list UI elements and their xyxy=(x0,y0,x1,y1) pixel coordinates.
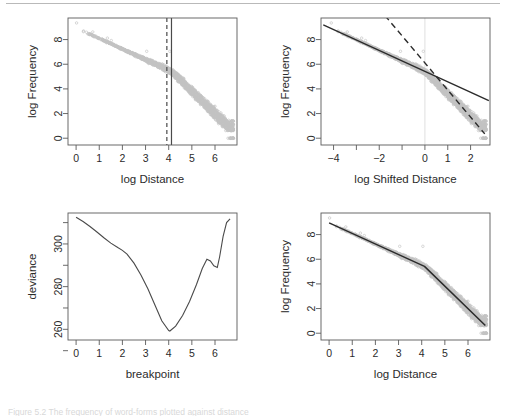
panel-bottom-right-x-tick-label: 6 xyxy=(465,347,471,359)
figure-caption-text: Figure 5.2 The frequency of word-forms p… xyxy=(0,408,506,416)
panel-top-right-y-tick-label: 6 xyxy=(305,61,317,67)
panel-bottom-left-y-axis: 260280300 xyxy=(52,223,68,351)
panel-bottom-left-y-tick-label: 280 xyxy=(52,278,64,296)
panel-bottom-left-x-tick-label: 5 xyxy=(189,347,195,359)
figure-caption-strip: Figure 5.2 The frequency of word-forms p… xyxy=(0,408,506,416)
panel-top-left-x-tick-label: 6 xyxy=(212,152,218,164)
panel-top-left-x-tick-label: 4 xyxy=(166,152,172,164)
panel-top-left-ylabel: log Frequency xyxy=(26,45,38,118)
panel-bottom-left: 0123456260280300breakpointdeviance xyxy=(26,213,237,380)
plot-grid: 012345602468log Distancelog Frequency−4−… xyxy=(0,0,506,404)
panel-bottom-left-x-tick-label: 3 xyxy=(143,347,149,359)
panel-top-left-y-axis: 02468 xyxy=(52,36,68,141)
panel-bottom-left-x-tick-label: 6 xyxy=(212,347,218,359)
panel-top-left-y-tick-label: 2 xyxy=(52,110,64,116)
panel-bottom-right-x-axis: 0123456 xyxy=(326,340,471,359)
panel-top-left-x-tick-label: 0 xyxy=(73,152,79,164)
top-horizontal-rule xyxy=(6,3,500,4)
panel-top-right-x-tick-label: 1 xyxy=(445,152,451,164)
panel-top-right-data-region xyxy=(323,16,489,145)
panel-top-right-x-tick-label: 0 xyxy=(422,152,428,164)
panel-top-left-data-region xyxy=(75,18,234,145)
panel-bottom-left-data-region xyxy=(76,217,230,331)
panel-top-left: 012345602468log Distancelog Frequency xyxy=(26,18,237,185)
panel-bottom-left-y-tick-label: 300 xyxy=(52,235,64,253)
panel-top-left-x-tick-label: 1 xyxy=(96,152,102,164)
figure-container: 012345602468log Distancelog Frequency−4−… xyxy=(0,0,506,416)
panel-top-right-x-axis: −4−2012 xyxy=(328,145,474,164)
panel-bottom-left-y-tick-label: 260 xyxy=(52,320,64,338)
panel-bottom-right-x-tick-label: 1 xyxy=(349,347,355,359)
panel-top-right-y-axis: 02468 xyxy=(305,36,321,141)
panel-bottom-right-ylabel: log Frequency xyxy=(279,240,291,313)
panel-bottom-right-x-tick-label: 0 xyxy=(326,347,332,359)
panel-bottom-left-x-tick-label: 1 xyxy=(96,347,102,359)
panel-bottom-right-x-tick-label: 5 xyxy=(442,347,448,359)
panel-bottom-right-data-region xyxy=(328,217,487,335)
panel-bottom-left-deviance-curve xyxy=(76,217,230,331)
panel-top-left-x-tick-label: 5 xyxy=(189,152,195,164)
panel-top-left-y-tick-label: 6 xyxy=(52,61,64,67)
panel-bottom-right-y-tick-label: 2 xyxy=(305,305,317,311)
panel-top-right-x-tick-label: −2 xyxy=(373,152,385,164)
shallow-regression-solid xyxy=(323,25,489,101)
panel-bottom-right-y-tick-label: 8 xyxy=(305,231,317,237)
panel-bottom-left-xlabel: breakpoint xyxy=(126,368,181,380)
panel-bottom-right-y-axis: 02468 xyxy=(305,231,321,336)
panel-top-right-y-tick-label: 8 xyxy=(305,36,317,42)
panel-top-right-y-tick-label: 4 xyxy=(305,86,317,92)
panel-bottom-right-y-tick-label: 0 xyxy=(305,330,317,336)
panel-bottom-right-x-tick-label: 2 xyxy=(372,347,378,359)
panel-top-left-x-tick-label: 3 xyxy=(143,152,149,164)
panel-top-left-x-tick-label: 2 xyxy=(119,152,125,164)
panel-bottom-right-y-tick-label: 6 xyxy=(305,256,317,262)
panel-bottom-left-x-tick-label: 2 xyxy=(119,347,125,359)
panel-bottom-left-ylabel: deviance xyxy=(26,253,38,299)
panel-top-right-y-tick-label: 0 xyxy=(305,135,317,141)
panel-bottom-left-x-axis: 0123456 xyxy=(73,340,218,359)
panel-top-right-y-tick-label: 2 xyxy=(305,110,317,116)
panel-top-right-ylabel: log Frequency xyxy=(279,45,291,118)
panel-bottom-right-y-tick-label: 4 xyxy=(305,281,317,287)
panel-top-left-scatter-points xyxy=(75,22,234,140)
panel-bottom-left-plot-box xyxy=(68,213,237,340)
panel-top-right-xlabel: log Shifted Distance xyxy=(354,173,456,185)
panel-bottom-right-x-tick-label: 3 xyxy=(396,347,402,359)
panel-top-right: −4−201202468log Shifted Distancelog Freq… xyxy=(279,16,490,185)
panel-top-left-y-tick-label: 0 xyxy=(52,135,64,141)
panel-top-left-y-tick-label: 4 xyxy=(52,86,64,92)
steep-regression-dashed xyxy=(385,16,485,134)
panel-top-left-y-tick-label: 8 xyxy=(52,36,64,42)
panel-top-left-x-axis: 0123456 xyxy=(73,145,218,164)
panel-bottom-left-x-tick-label: 4 xyxy=(166,347,172,359)
panel-bottom-right-scatter-points xyxy=(328,217,487,335)
panel-bottom-right: 012345602468log Distancelog Frequency xyxy=(279,213,490,380)
panel-bottom-right-xlabel: log Distance xyxy=(374,368,437,380)
panel-bottom-right-x-tick-label: 4 xyxy=(419,347,425,359)
panel-top-left-xlabel: log Distance xyxy=(121,173,184,185)
panel-bottom-left-x-tick-label: 0 xyxy=(73,347,79,359)
panel-top-right-x-tick-label: 2 xyxy=(468,152,474,164)
panel-top-right-x-tick-label: −4 xyxy=(328,152,340,164)
piecewise-broken-stick-fit xyxy=(329,223,485,326)
